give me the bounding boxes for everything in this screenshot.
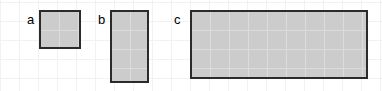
- rectangle-a: [39, 10, 81, 49]
- shape-label-b: b: [98, 13, 105, 26]
- shape-label-a: a: [27, 13, 34, 26]
- shape-label-c: c: [174, 13, 181, 26]
- rectangle-c: [190, 10, 368, 79]
- figure-canvas: a b c: [0, 0, 382, 91]
- rectangle-b: [110, 10, 149, 83]
